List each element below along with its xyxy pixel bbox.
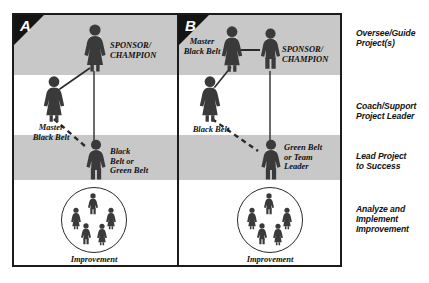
panel-b-team-member-4	[255, 223, 269, 245]
panel-divider	[177, 15, 179, 265]
panel-a-team-label: Improvement Team	[55, 255, 133, 267]
panel-a-sponsor-figure	[82, 23, 108, 73]
panel-b-mbb-label: Master Black Belt	[181, 37, 223, 56]
panel-a-team-member-4	[79, 223, 93, 245]
panel-a-mbb-label: Master Black Belt	[20, 123, 82, 142]
panel-b-team-member-1	[262, 193, 276, 215]
panel-a-team-member-1	[86, 193, 100, 215]
panel-b-bb-label: Black Belt	[182, 125, 240, 135]
panel-a-mbb-figure	[41, 75, 67, 123]
phase-caption-coach: Coach/Support Project Leader	[356, 101, 416, 121]
diagram-frame: A B SPONSOR/ CHAMPION Master Black Belt	[12, 13, 342, 267]
panel-a-label: A	[20, 18, 31, 33]
panel-b-sponsor-figure	[258, 27, 283, 71]
panel-a-belt-figure	[83, 139, 109, 181]
panel-b-belt-figure	[258, 139, 284, 181]
panel-b-belt-label: Green Belt or Team Leader	[284, 143, 340, 172]
phase-caption-analyze: Analyze and Implement Improvement	[356, 204, 409, 234]
panel-b-sponsor-label: SPONSOR/ CHAMPION	[282, 45, 338, 64]
panel-b-bb-figure	[197, 75, 223, 123]
panel-b-team-label: Improvement Team	[231, 255, 309, 267]
phase-caption-oversee: Oversee/Guide Project(s)	[356, 28, 415, 48]
panel-b-team-member-5	[271, 223, 285, 246]
panel-a-sponsor-label: SPONSOR/ CHAMPION	[110, 41, 172, 60]
panel-a-belt-label: Black Belt or Green Belt	[110, 147, 168, 176]
diagram-canvas: A B SPONSOR/ CHAMPION Master Black Belt	[0, 0, 429, 283]
panel-b-label: B	[185, 18, 196, 33]
phase-caption-lead: Lead Project to Success	[356, 151, 406, 171]
panel-a-team-member-5	[95, 223, 109, 246]
